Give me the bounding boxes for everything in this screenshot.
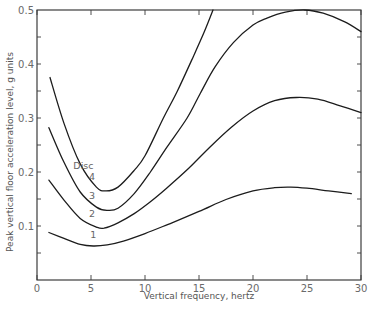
x-axis-title: Vertical frequency, hertz [144, 291, 255, 301]
x-tick-label: 5 [88, 283, 94, 294]
curve-label-3: 3 [89, 190, 95, 201]
curve-label-1: 1 [90, 229, 96, 240]
acceleration-frequency-chart: 051015202530 0.10.20.30.40.5 Disc4321 Ve… [0, 0, 377, 314]
x-tick-label: 30 [355, 283, 368, 294]
x-tick-label: 0 [34, 283, 40, 294]
y-tick-label: 0.4 [18, 59, 34, 70]
y-tick-label: 0.2 [18, 167, 34, 178]
y-tick-label: 0.5 [18, 5, 34, 16]
x-axis-ticks: 051015202530 [34, 10, 368, 294]
y-tick-label: 0.3 [18, 113, 34, 124]
legend-title: Disc [73, 160, 93, 171]
x-tick-label: 25 [301, 283, 314, 294]
y-tick-label: 0.1 [18, 221, 34, 232]
curve-label-2: 2 [89, 208, 95, 219]
curve-label-4: 4 [89, 171, 95, 182]
curves [49, 10, 361, 246]
plot-frame [37, 10, 361, 280]
plot-border [37, 10, 361, 280]
y-axis-title: Peak vertical floor acceleration level, … [5, 52, 15, 252]
curve-disc-3 [49, 10, 361, 210]
